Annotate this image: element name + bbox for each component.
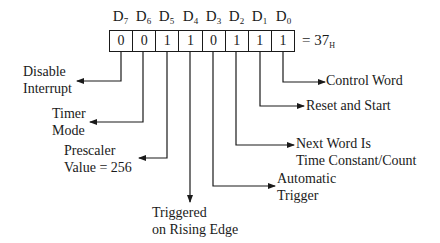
control-word-diagram: D7 D6 D5 D4 D3 D2 D1 D0 0 0 1 1 0 1 1 1 … bbox=[0, 0, 440, 243]
connector-d1 bbox=[260, 52, 304, 106]
annotation-d5: Prescaler Value = 256 bbox=[64, 143, 132, 176]
annotation-d4: Triggered on Rising Edge bbox=[152, 205, 238, 238]
annotation-d1: Reset and Start bbox=[306, 98, 391, 115]
connector-d2 bbox=[236, 52, 294, 145]
annotation-d3: Automatic Trigger bbox=[277, 171, 336, 204]
connector-d3 bbox=[213, 52, 275, 186]
connector-d0 bbox=[283, 52, 325, 82]
connector-d7 bbox=[77, 52, 121, 81]
annotation-d2: Next Word Is Time Constant/Count bbox=[296, 136, 416, 169]
annotation-d0: Control Word bbox=[326, 73, 403, 90]
annotation-d7: Disable Interrupt bbox=[23, 64, 72, 97]
annotation-d6: Timer Mode bbox=[52, 106, 86, 139]
connector-d6 bbox=[90, 52, 143, 122]
